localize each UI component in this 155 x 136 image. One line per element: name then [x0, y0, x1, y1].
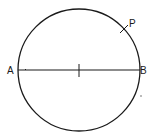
- small-dot: [140, 95, 141, 96]
- label-p: P: [129, 18, 136, 29]
- label-b: B: [140, 65, 147, 76]
- geometry-diagram: A B P: [0, 0, 155, 136]
- label-a: A: [7, 65, 14, 76]
